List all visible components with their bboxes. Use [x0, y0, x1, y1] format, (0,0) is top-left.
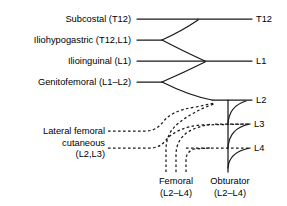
obturator-name: Obturator — [210, 176, 249, 188]
lumbar-plexus-diagram: Subcostal (T12) Iliohypogastric (T12,L1)… — [0, 0, 287, 206]
spinal-level-l3: L3 — [254, 119, 264, 130]
left-label-genitofemoral: Genitofemoral (L1–L2) — [38, 77, 131, 88]
obturator-root-l4 — [228, 148, 250, 168]
lfc-label-line2: cutaneous — [0, 138, 105, 150]
left-label-subcostal: Subcostal (T12) — [65, 14, 131, 25]
femoral-root-l4 — [186, 148, 210, 172]
spinal-level-l1: L1 — [256, 56, 266, 67]
iliohypogastric-branch-t12 — [162, 20, 198, 40]
obturator-roots: (L2–L4) — [210, 188, 249, 200]
bottom-label-femoral: Femoral (L2–L4) — [159, 176, 193, 199]
left-label-ilioinguinal: Ilioinguinal (L1) — [68, 56, 131, 67]
genitofemoral-branch-l1 — [162, 62, 205, 82]
femoral-name: Femoral — [159, 176, 193, 188]
obturator-root-l3 — [228, 124, 250, 148]
iliohypogastric-branch-l1 — [162, 40, 205, 61]
bottom-label-obturator: Obturator (L2–L4) — [210, 176, 249, 199]
femoral-roots: (L2–L4) — [159, 188, 193, 200]
lfc-label-line3: (L2,L3) — [0, 149, 105, 161]
spinal-level-l4: L4 — [254, 143, 264, 154]
spinal-level-l2: L2 — [256, 95, 266, 106]
lateral-femoral-cutaneous-label: Lateral femoral cutaneous (L2,L3) — [0, 126, 105, 161]
obturator-root-l2 — [228, 101, 246, 124]
left-label-iliohypogastric: Iliohypogastric (T12,L1) — [34, 35, 131, 46]
spinal-level-t12: T12 — [256, 14, 272, 25]
lfc-label-line1: Lateral femoral — [0, 126, 105, 138]
genitofemoral-branch-l2 — [162, 82, 212, 100]
